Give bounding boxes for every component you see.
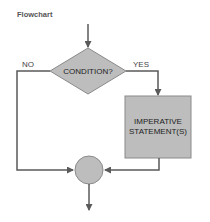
statement-node: IMPERATIVE STATEMENT(S)	[125, 96, 191, 158]
yes-label: YES	[133, 60, 149, 69]
statement-label-line2: STATEMENT(S)	[129, 127, 187, 136]
condition-label: CONDITION?	[63, 67, 113, 76]
flowchart-canvas: CONDITION? NO YES IMPERATIVE STATEMENT(S…	[0, 0, 210, 222]
no-branch-edge	[17, 71, 73, 170]
statement-to-junction-edge	[105, 158, 159, 170]
junction-node	[75, 156, 103, 184]
no-label: NO	[22, 60, 34, 69]
condition-node: CONDITION?	[50, 48, 126, 94]
yes-branch-edge	[126, 71, 158, 95]
statement-label-line1: IMPERATIVE	[134, 117, 182, 126]
